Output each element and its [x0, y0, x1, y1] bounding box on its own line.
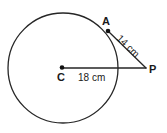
label-length-cp: 18 cm: [78, 72, 105, 83]
geometry-figure: A C P 14 cm 18 cm: [0, 0, 167, 133]
figure-canvas: A C P 14 cm 18 cm: [0, 0, 167, 133]
label-length-ap: 14 cm: [115, 33, 142, 60]
label-point-p: P: [149, 63, 156, 75]
point-dot-a: [106, 29, 111, 34]
label-point-a: A: [102, 15, 110, 27]
point-dot-c: [60, 65, 65, 70]
label-point-c: C: [57, 71, 65, 83]
